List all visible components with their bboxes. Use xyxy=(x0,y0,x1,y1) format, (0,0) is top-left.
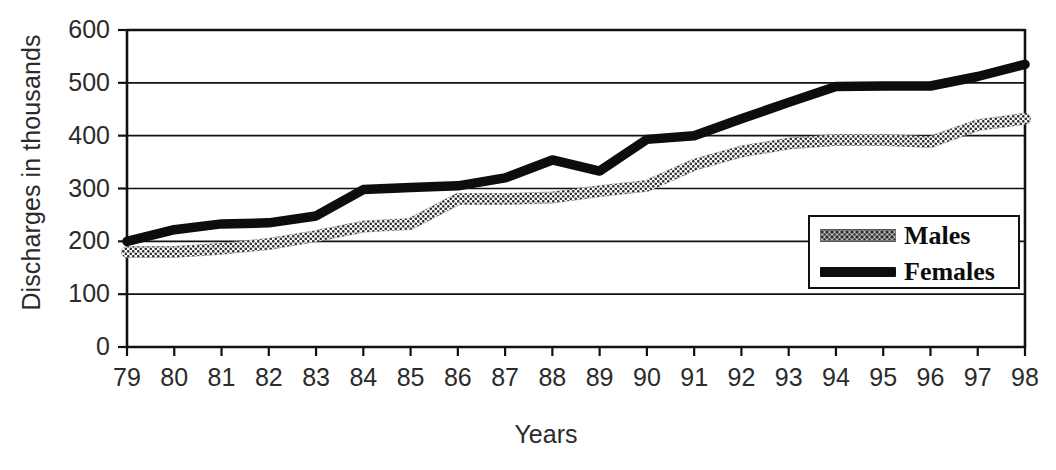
x-tick-label: 91 xyxy=(674,365,714,390)
y-tick-label: 200 xyxy=(28,228,110,253)
x-tick-label: 93 xyxy=(769,365,809,390)
y-tick-label: 600 xyxy=(28,17,110,42)
y-tick-label: 500 xyxy=(28,70,110,95)
x-tick-label: 87 xyxy=(485,365,525,390)
x-axis-title: Years xyxy=(0,420,1056,449)
legend-item-males: Males xyxy=(810,217,1022,254)
y-tick-label: 100 xyxy=(28,281,110,306)
x-tick-label: 96 xyxy=(910,365,950,390)
x-axis-title-text: Years xyxy=(514,420,577,448)
x-tick-label: 95 xyxy=(863,365,903,390)
x-tick-label: 86 xyxy=(438,365,478,390)
legend-item-females: Females xyxy=(810,253,1022,290)
x-tick-label: 98 xyxy=(1005,365,1045,390)
x-tick-label: 90 xyxy=(627,365,667,390)
x-tick-label: 89 xyxy=(580,365,620,390)
x-tick-label: 82 xyxy=(249,365,289,390)
x-tick-label: 80 xyxy=(154,365,194,390)
x-tick-label: 92 xyxy=(721,365,761,390)
x-tick-label: 85 xyxy=(391,365,431,390)
series-males xyxy=(107,10,1047,370)
y-axis-tick-labels: 0100200300400500600 xyxy=(28,0,110,470)
plot-svg xyxy=(127,30,1025,347)
x-tick-label: 81 xyxy=(202,365,242,390)
x-tick-label: 84 xyxy=(343,365,383,390)
line-chart: Discharges in thousands 0100200300400500… xyxy=(0,0,1056,470)
y-tick-label: 0 xyxy=(28,334,110,359)
x-tick-label: 88 xyxy=(532,365,572,390)
legend-label-females: Females xyxy=(904,259,995,285)
y-tick-label: 400 xyxy=(28,123,110,148)
legend-label-males: Males xyxy=(904,223,970,249)
x-tick-label: 83 xyxy=(296,365,336,390)
chart-legend: Males Females xyxy=(808,215,1020,289)
dotted-line-swatch-icon xyxy=(820,229,896,242)
y-tick-label: 300 xyxy=(28,176,110,201)
x-tick-label: 94 xyxy=(816,365,856,390)
plot-area xyxy=(127,30,1025,347)
solid-line-swatch-icon xyxy=(820,267,896,277)
x-tick-label: 79 xyxy=(107,365,147,390)
x-tick-label: 97 xyxy=(958,365,998,390)
x-axis-tick-labels: 7980818283848586878889909192939495969798 xyxy=(0,365,1056,399)
